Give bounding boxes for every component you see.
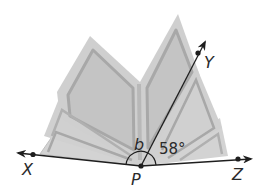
angle-diagram: X P Z Y b 58° xyxy=(0,0,267,195)
label-P: P xyxy=(131,170,141,189)
diagram-canvas: X P Z Y b 58° xyxy=(0,0,267,195)
point-X xyxy=(30,152,35,157)
label-angle-b: b xyxy=(134,135,144,154)
label-Z: Z xyxy=(231,165,244,184)
label-angle-58: 58° xyxy=(159,140,186,158)
point-Z xyxy=(235,156,240,161)
label-Y: Y xyxy=(204,53,215,72)
point-Y xyxy=(195,50,200,55)
label-X: X xyxy=(21,160,34,179)
point-P xyxy=(138,163,143,168)
